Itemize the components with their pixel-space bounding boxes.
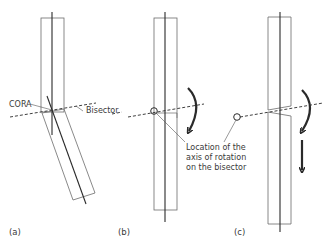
panel-label-c: (c) (234, 227, 245, 237)
axis-location-label-line2: axis of rotation (186, 153, 246, 162)
diagram-canvas: CORA Bisector (a) Location of the axis o… (0, 0, 326, 244)
distal-axis-a (47, 96, 86, 204)
axis-location-leader-c (224, 120, 236, 142)
panel-a: CORA Bisector (a) (9, 12, 122, 237)
bisector-line-b (128, 104, 204, 117)
diagram-figure: CORA Bisector (a) Location of the axis o… (0, 0, 326, 244)
cora-label: CORA (9, 100, 32, 109)
rotation-arrow-c (302, 90, 310, 131)
rotation-arrow-b (188, 88, 196, 131)
rotation-axis-marker-c (234, 114, 241, 121)
bisector-leader (76, 106, 83, 111)
panel-b: Location of the axis of rotation on the … (118, 12, 247, 237)
panel-label-a: (a) (9, 227, 21, 237)
axis-location-label-line3: on the bisector (186, 163, 247, 172)
axis-location-label-line1: Location of the (186, 143, 246, 152)
panel-label-b: (b) (118, 227, 130, 237)
axis-location-leader-b (156, 113, 185, 142)
panel-c: (c) (224, 12, 323, 237)
